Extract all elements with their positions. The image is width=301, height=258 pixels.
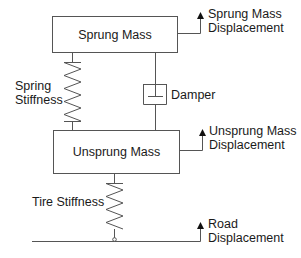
tire-spring-icon xyxy=(106,174,123,240)
sprung-mass-label: Sprung Mass xyxy=(52,28,178,42)
spring-stiffness-label-line1: Spring xyxy=(15,79,51,93)
spring-stiffness-label-line2: Stiffness xyxy=(15,93,63,107)
damper-label: Damper xyxy=(171,88,215,102)
unsprung-output-connector xyxy=(180,136,203,151)
unsprung-displacement-label-line1: Unsprung Mass xyxy=(209,124,297,138)
damper-icon xyxy=(144,53,167,131)
unsprung-mass-label: Unsprung Mass xyxy=(53,145,180,159)
sprung-displacement-label-line1: Sprung Mass xyxy=(208,7,282,21)
quarter-car-diagram: Sprung Mass Unsprung Mass Spring Stiffne… xyxy=(0,0,301,258)
road-displacement-label-line2: Displacement xyxy=(208,231,284,245)
arrow-up-icon xyxy=(199,129,206,136)
tire-stiffness-label: Tire Stiffness xyxy=(32,195,104,209)
suspension-spring-icon xyxy=(64,53,81,131)
sprung-output-connector xyxy=(178,19,201,34)
unsprung-displacement-label-line2: Displacement xyxy=(209,138,285,152)
contact-point-icon xyxy=(113,238,117,242)
road-displacement-label-line1: Road xyxy=(208,217,238,231)
arrow-up-icon xyxy=(197,222,204,229)
arrow-up-icon xyxy=(197,12,204,19)
sprung-displacement-label-line2: Displacement xyxy=(208,21,284,35)
